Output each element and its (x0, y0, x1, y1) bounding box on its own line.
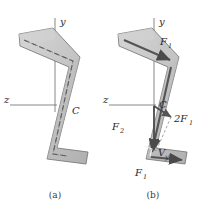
panel-b: y z (102, 16, 193, 181)
figure-root: y z C (0, 0, 199, 218)
panel-a-z-axis-label: z (3, 94, 10, 105)
panel-b-caption: (b) (133, 190, 173, 200)
label-top-flange-force-text: F (159, 36, 168, 47)
panel-b-centroid-label: C (159, 99, 167, 110)
label-web-force: F 2 (111, 121, 124, 135)
label-web-force-text: F (111, 121, 120, 132)
panel-b-z-axis-label: z (102, 94, 109, 105)
panel-b-z-axis: z (102, 94, 156, 105)
panel-a-caption: (a) (35, 190, 75, 200)
panel-a-centroid-label: C (72, 105, 80, 116)
panel-b-z-section (118, 28, 187, 164)
panel-a-z-section (19, 28, 88, 164)
panel-a: y z C (3, 16, 88, 164)
label-bottom-flange-force-sub: 1 (143, 173, 147, 181)
figure-svg: y z C (0, 0, 199, 218)
panel-b-y-axis-label: y (158, 16, 165, 27)
label-vertical-shear-sub: y (164, 153, 169, 161)
label-top-flange-force-sub: 1 (168, 42, 172, 50)
label-bottom-flange-force-text: F (134, 167, 143, 178)
label-horizontal-resultant-sub: 1 (189, 119, 193, 127)
label-horizontal-resultant-text: 2F (173, 113, 188, 124)
panel-a-z-axis: z (3, 94, 57, 105)
label-horizontal-resultant: 2F 1 (173, 113, 193, 127)
label-bottom-flange-force: F 1 (134, 167, 147, 181)
label-web-force-sub: 2 (119, 127, 124, 135)
panel-a-y-axis-label: y (59, 16, 66, 27)
